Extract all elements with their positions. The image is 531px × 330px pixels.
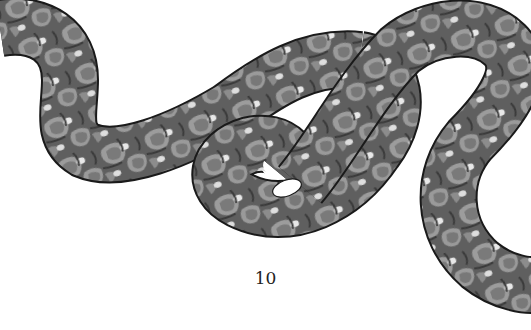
page-number: 10	[0, 268, 531, 288]
snake-body	[0, 27, 531, 285]
document-page: 10	[0, 0, 531, 330]
